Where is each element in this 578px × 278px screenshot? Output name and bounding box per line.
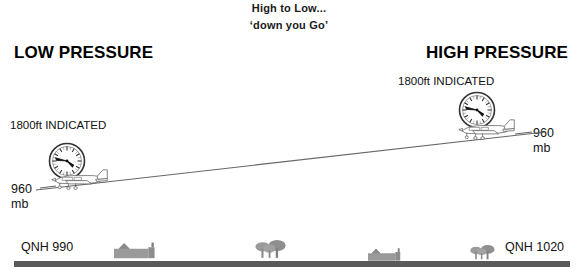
diagram-artwork (0, 0, 578, 278)
low-side-altimeter-icon (50, 144, 85, 179)
altimetry-pressure-diagram: High to Low... ‘down you Go’ LOW PRESSUR… (0, 0, 578, 278)
house-icon (114, 243, 155, 259)
tree-cluster-icon (255, 240, 285, 258)
high-side-altimeter-icon (460, 93, 495, 128)
house-icon (368, 248, 400, 260)
flight-path-line (36, 132, 545, 190)
tree-cluster-icon (470, 245, 494, 259)
ground-strip (14, 261, 570, 267)
